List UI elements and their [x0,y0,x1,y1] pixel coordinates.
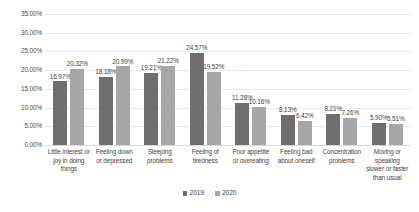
bar-group: 8.21%7.26% [319,14,365,145]
bar-2019[interactable] [281,115,295,145]
bar-value-label: 7.26% [341,110,359,116]
bar-chart: 35.00%30.00%25.00%20.00%15.00%10.00%5.00… [0,0,419,212]
x-axis-category-label: Poor appetite or overeating [228,148,274,182]
bar-column: 5.90% [372,14,386,145]
bar-group: 16.97%20.32% [46,14,92,145]
legend-swatch-icon [215,191,220,196]
bar-group: 18.18%20.99% [92,14,138,145]
bar-2019[interactable] [99,77,113,145]
legend-label: 2019 [190,190,204,197]
bar-column: 19.52% [207,14,221,145]
bar-column: 18.18% [99,14,113,145]
bar-value-label: 8.13% [279,107,297,113]
bar-2020[interactable] [70,69,84,145]
x-axis-category-label: Little interest or joy in doing things [46,148,92,182]
bar-column: 21.22% [161,14,175,145]
bar-column: 10.16% [252,14,266,145]
bar-value-label: 8.21% [324,106,342,112]
bar-2019[interactable] [144,73,158,145]
y-axis-tick-label: 10.00% [21,104,42,110]
bar-column: 20.32% [70,14,84,145]
bar-2020[interactable] [161,66,175,145]
axis-baseline [46,145,410,146]
bar-column: 7.26% [343,14,357,145]
x-axis-category-label: Feeling down or depressed [92,148,138,182]
legend-swatch-icon [183,191,188,196]
bar-column: 16.97% [53,14,67,145]
bar-value-label: 24.57% [186,45,207,51]
bar-2020[interactable] [298,121,312,145]
bar-2020[interactable] [389,124,403,145]
bar-column: 20.99% [116,14,130,145]
bar-2020[interactable] [116,66,130,145]
bar-2020[interactable] [343,118,357,145]
bar-group: 19.21%21.22% [137,14,183,145]
bar-value-label: 5.90% [370,115,388,121]
bar-group: 24.57%19.52% [183,14,229,145]
x-axis-category-label: Feeling bad about oneself [274,148,320,182]
bar-2019[interactable] [190,53,204,145]
y-axis-tick-label: 20.00% [21,67,42,73]
legend-item-2019[interactable]: 2019 [183,190,204,197]
x-axis-category-label: Feeling of tiredness [183,148,229,182]
bar-value-label: 18.18% [95,69,116,75]
bar-value-label: 5.51% [387,116,405,122]
y-axis-tick-label: 25.00% [21,48,42,54]
y-axis-tick-label: 15.00% [21,86,42,92]
bar-2019[interactable] [326,114,340,145]
legend-label: 2020 [222,190,236,197]
bar-column: 6.42% [298,14,312,145]
bar-group: 5.90%5.51% [365,14,411,145]
bar-value-label: 20.32% [67,61,88,67]
bar-2020[interactable] [207,72,221,145]
bar-value-label: 19.21% [141,65,162,71]
bar-value-label: 19.52% [203,64,224,70]
bar-2019[interactable] [235,103,249,145]
legend-item-2020[interactable]: 2020 [215,190,236,197]
x-axis-category-label: Moving or speaking slower or faster than… [365,148,411,182]
bar-value-label: 6.42% [296,113,314,119]
chart-legend: 20192020 [0,190,419,197]
x-axis-category-label: Sleeping problems [137,148,183,182]
bar-column: 24.57% [190,14,204,145]
bar-group: 8.13%6.42% [274,14,320,145]
bar-column: 8.13% [281,14,295,145]
bar-value-label: 21.22% [158,58,179,64]
bar-group: 11.28%10.16% [228,14,274,145]
bar-value-label: 20.99% [112,59,133,65]
y-axis-tick-label: 30.00% [21,30,42,36]
bar-value-label: 16.97% [50,74,71,80]
bar-2019[interactable] [53,81,67,145]
y-axis: 35.00%30.00%25.00%20.00%15.00%10.00%5.00… [0,14,42,145]
y-axis-tick-label: 5.00% [24,123,42,129]
bar-2019[interactable] [372,123,386,145]
bar-groups: 16.97%20.32%18.18%20.99%19.21%21.22%24.5… [46,14,410,145]
bar-column: 19.21% [144,14,158,145]
y-axis-tick-label: 35.00% [21,11,42,17]
bar-column: 8.21% [326,14,340,145]
bar-value-label: 10.16% [249,99,270,105]
y-axis-tick-label: 0.00% [24,142,42,148]
x-axis-category-label: Concentration problems [319,148,365,182]
bar-2020[interactable] [252,107,266,145]
x-axis-labels: Little interest or joy in doing thingsFe… [46,148,410,182]
bar-column: 5.51% [389,14,403,145]
bar-column: 11.28% [235,14,249,145]
